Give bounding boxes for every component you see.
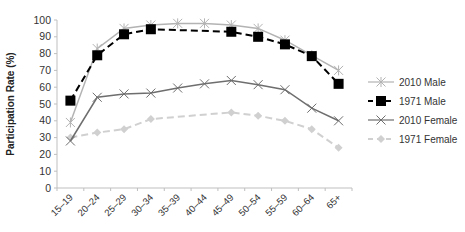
y-tick-label: 90 [39,30,51,42]
x-tick-label: 65+ [324,191,343,210]
data-point-marker [147,115,155,123]
data-point-marker [146,24,156,34]
y-tick-label: 40 [39,114,51,126]
legend-item-1971-male: 1971 Male [368,96,446,107]
x-tick-label: 25–29 [102,192,128,218]
series-line [70,23,338,122]
series-line [70,29,338,100]
data-point-marker [307,51,317,61]
x-tick-label: 20–24 [75,192,101,218]
data-point-marker [280,39,290,49]
x-tick-label: 35–39 [156,192,182,218]
chart-legend: 2010 Male1971 Male2010 Female1971 Female [368,77,458,145]
series-2010-female [66,76,343,145]
data-point-marker [227,108,235,116]
data-point-marker [65,96,75,106]
data-point-marker [119,29,129,39]
data-point-marker [226,27,236,37]
data-point-marker [92,50,102,60]
chart-series [65,18,343,151]
data-point-marker [120,125,128,133]
data-point-marker [66,117,75,127]
series-line [70,112,338,147]
participation-rate-chart: 010203040506070809010015–1920–2425–2930–… [0,0,465,232]
y-tick-label: 80 [39,47,51,59]
legend-label: 1971 Male [399,96,446,107]
x-tick-label: 40–44 [182,192,208,218]
y-tick-label: 100 [33,14,51,26]
y-tick-label: 50 [39,98,51,110]
data-point-marker [93,129,101,137]
chart-svg: 010203040506070809010015–1920–2425–2930–… [0,0,465,232]
x-tick-label: 45–49 [209,192,235,218]
data-point-marker [254,112,262,120]
y-tick-label: 60 [39,81,51,93]
legend-label: 2010 Female [399,115,458,126]
legend-item-2010-male: 2010 Male [368,77,446,88]
x-tick-label: 55–59 [263,192,289,218]
series-1971-female [66,108,342,151]
y-axis-label: Participation Rate (%) [5,52,16,155]
y-tick-label: 0 [45,182,51,194]
x-tick-label: 30–34 [129,192,155,218]
x-tick-label: 60–64 [290,192,316,218]
legend-item-1971-female: 1971 Female [368,134,458,145]
legend-label: 1971 Female [399,134,458,145]
data-point-marker [335,144,343,152]
data-point-marker [253,32,263,42]
y-tick-label: 10 [39,165,51,177]
data-point-marker [334,79,344,89]
series-2010-male [66,18,343,127]
data-point-marker [334,116,343,125]
data-point-marker [307,104,316,113]
data-point-marker [334,65,343,75]
y-tick-label: 30 [39,131,51,143]
y-tick-label: 20 [39,148,51,160]
legend-marker [377,135,385,143]
x-tick-label: 50–54 [236,192,262,218]
x-tick-label: 15–19 [48,192,74,218]
data-point-marker [281,117,289,125]
legend-marker [376,96,386,106]
series-1971-male [65,24,343,105]
legend-item-2010-female: 2010 Female [368,115,458,126]
legend-label: 2010 Male [399,77,446,88]
y-tick-label: 70 [39,64,51,76]
data-point-marker [308,125,316,133]
series-line [70,81,338,142]
